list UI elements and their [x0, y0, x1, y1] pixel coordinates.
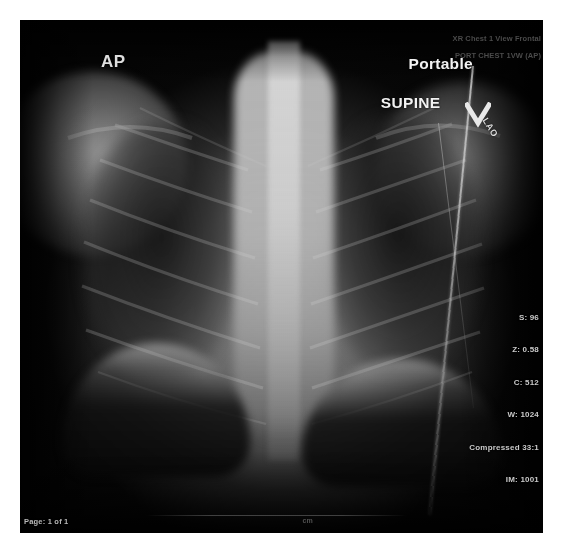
- lao-obliquity-marker: LAO: [465, 102, 527, 150]
- window-width-label: W: 1024: [469, 410, 539, 421]
- scale-unit-label: cm: [302, 517, 313, 525]
- position-line-supine: SUPINE: [381, 94, 473, 111]
- compression-ratio-label: Compressed 33:1: [469, 443, 539, 454]
- chest-radiograph-image[interactable]: AP Portable SUPINE XR Chest 1 View Front…: [20, 20, 543, 533]
- technical-parameters-readout: S: 96 Z: 0.58 C: 512 W: 1024 Compressed …: [469, 291, 539, 507]
- study-description-line-2: PORT CHEST 1VW (AP): [439, 52, 541, 60]
- dicom-image-viewer: AP Portable SUPINE XR Chest 1 View Front…: [0, 0, 562, 553]
- zoom-factor-label: Z: 0.58: [469, 345, 539, 356]
- image-number-label: IM: 1001: [469, 475, 539, 486]
- page-indicator: Page: 1 of 1: [24, 518, 69, 526]
- study-description-line-1: XR Chest 1 View Frontal: [453, 34, 541, 43]
- window-center-label: C: 512: [469, 378, 539, 389]
- study-description-header: XR Chest 1 View Frontal PORT CHEST 1VW (…: [439, 26, 541, 77]
- projection-marker-ap: AP: [101, 52, 126, 71]
- baseline-ruler: [146, 515, 408, 516]
- series-number-label: S: 96: [469, 313, 539, 324]
